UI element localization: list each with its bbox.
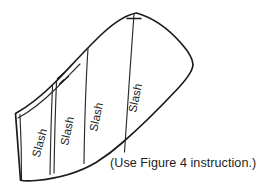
pattern-diagram-svg: Slash Slash Slash Slash (Use Figure 4 in…: [0, 0, 263, 192]
pattern-figure: Slash Slash Slash Slash (Use Figure 4 in…: [0, 0, 263, 192]
instruction-caption: (Use Figure 4 instruction.): [110, 156, 256, 170]
